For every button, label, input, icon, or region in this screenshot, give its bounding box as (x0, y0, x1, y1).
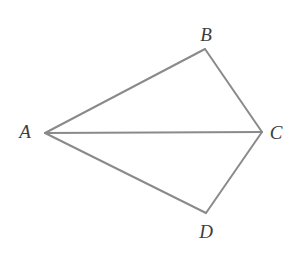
geometry-figure: A B C D (0, 0, 301, 253)
segment-cd (206, 132, 262, 213)
segment-da (45, 133, 206, 213)
vertex-label-a: A (19, 122, 31, 141)
figure-canvas (0, 0, 301, 253)
segment-bc (205, 49, 262, 132)
segment-ab (45, 49, 205, 133)
vertex-label-c: C (270, 123, 283, 142)
segment-ac-diagonal (45, 132, 262, 133)
vertex-label-d: D (199, 222, 213, 241)
vertex-label-b: B (200, 25, 212, 44)
segments-group (45, 49, 262, 213)
